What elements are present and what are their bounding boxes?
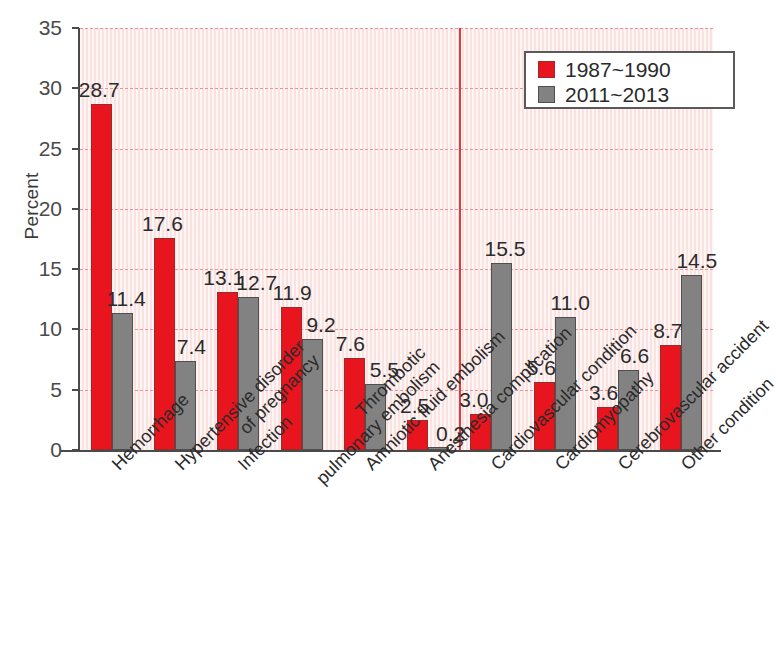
bar-value-label: 15.5 [483,238,527,259]
y-axis-tick-mark [72,328,79,330]
y-axis-tick-mark [72,449,79,451]
legend-item: 1987~1990 [538,57,733,82]
legend-swatch-icon [538,61,555,78]
legend: 1987~1990 2011~2013 [524,51,735,109]
y-axis-tick-mark [72,148,79,150]
gridline [80,149,713,150]
bar [681,275,702,450]
bar-value-label: 11.9 [270,282,314,303]
bar-value-label: 7.6 [328,333,372,354]
y-axis-tick-label: 35 [22,17,62,38]
y-axis-tick-label: 25 [22,138,62,159]
y-axis-tick-label: 15 [22,258,62,279]
y-axis-tick-mark [72,389,79,391]
y-axis-tick-mark [72,27,79,29]
y-axis-tick-label: 5 [22,379,62,400]
gridline [80,209,713,210]
legend-swatch-icon [538,86,555,103]
bar [112,313,133,450]
y-axis-tick-label: 0 [22,439,62,460]
bar-value-label: 14.5 [675,250,719,271]
bar-value-label: 28.7 [77,79,121,100]
legend-item: 2011~2013 [538,82,733,107]
y-axis-tick-label: 10 [22,318,62,339]
bar [91,104,112,450]
bar-value-label: 7.4 [169,336,213,357]
y-axis-tick-label: 20 [22,198,62,219]
bar-value-label: 17.6 [140,213,184,234]
bar-value-label: 8.7 [646,320,690,341]
bar [491,263,512,450]
bar-value-label: 11.0 [548,292,592,313]
legend-label: 2011~2013 [565,84,669,105]
gridline [80,269,713,270]
y-axis-tick-mark [72,268,79,270]
gridline [80,28,713,29]
y-axis-tick-label: 30 [22,77,62,98]
bar-value-label: 11.4 [104,288,148,309]
y-axis-tick-mark [72,208,79,210]
legend-label: 1987~1990 [565,59,671,80]
